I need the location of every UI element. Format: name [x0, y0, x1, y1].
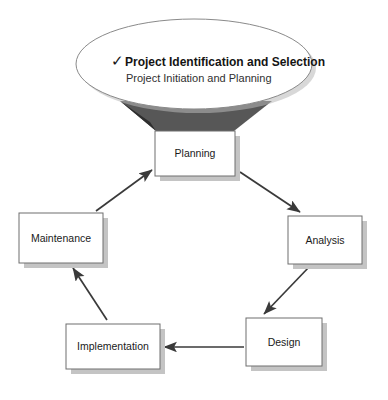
node-planning[interactable]: Planning — [155, 131, 240, 181]
callout-title: Project Identification and Selection — [125, 55, 325, 69]
node-implementation[interactable]: Implementation — [66, 324, 165, 374]
node-implementation-label: Implementation — [77, 340, 149, 352]
arrow-analysis-to-design — [264, 266, 310, 314]
diagram-canvas: ✓ Project Identification and Selection P… — [0, 0, 388, 400]
node-design-label: Design — [268, 336, 301, 348]
arrow-maintenance-to-planning — [96, 170, 152, 211]
checkmark-icon: ✓ — [111, 52, 124, 69]
node-analysis[interactable]: Analysis — [288, 216, 367, 269]
arrow-implementation-to-maintenance — [73, 268, 107, 320]
node-maintenance-label: Maintenance — [31, 232, 91, 244]
callout-subtitle: Project Initiation and Planning — [126, 72, 272, 84]
node-planning-label: Planning — [175, 147, 216, 159]
arrow-planning-to-analysis — [240, 172, 300, 212]
node-maintenance[interactable]: Maintenance — [19, 213, 108, 268]
sdlc-cycle-diagram: ✓ Project Identification and Selection P… — [0, 0, 388, 400]
node-analysis-label: Analysis — [305, 234, 344, 246]
node-design[interactable]: Design — [246, 318, 327, 371]
